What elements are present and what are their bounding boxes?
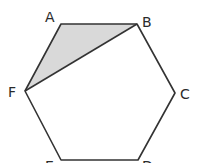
vertex-label-b: B: [142, 14, 152, 30]
vertex-label-e: E: [45, 158, 54, 163]
vertex-label-d: D: [142, 158, 153, 163]
vertex-label-f: F: [8, 84, 16, 100]
vertex-label-c: C: [180, 86, 190, 102]
vertex-label-a: A: [45, 9, 55, 25]
hexagon-diagram: A B C D E F: [0, 0, 200, 163]
